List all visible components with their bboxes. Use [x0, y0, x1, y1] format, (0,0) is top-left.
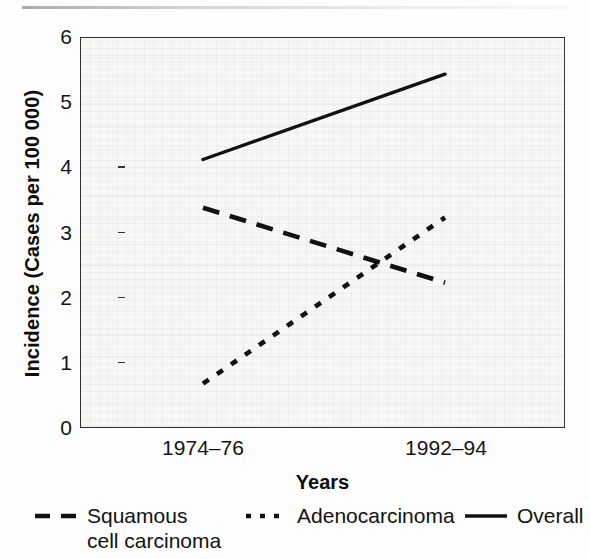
- y-tick-label-3: 3: [44, 222, 72, 243]
- x-axis-title: Years: [80, 471, 565, 494]
- series-line-squamous: [203, 208, 445, 283]
- y-tick-label-6: 6: [44, 26, 72, 47]
- legend-swatch-dotted-icon: [244, 507, 288, 525]
- y-tick-label-0: 0: [44, 417, 72, 438]
- legend-swatch-solid-icon: [464, 507, 508, 525]
- legend-label-adenocarcinoma: Adenocarcinoma: [297, 503, 455, 528]
- legend-swatch-dashed-icon: [34, 507, 78, 525]
- y-tick-label-1: 1: [44, 352, 72, 373]
- x-tick-label-1974-76: 1974–76: [123, 436, 283, 460]
- y-axis-title: Incidence (Cases per 100 000): [21, 34, 44, 434]
- x-tick-label-1992-94: 1992–94: [366, 436, 526, 460]
- legend-item-overall: Overall: [464, 503, 574, 528]
- chart-legend: Squamous cell carcinoma Adenocarcinoma: [34, 503, 574, 557]
- legend-item-squamous: Squamous cell carcinoma: [34, 503, 244, 553]
- legend-label-overall: Overall: [517, 503, 584, 528]
- legend-label-squamous: Squamous cell carcinoma: [87, 503, 221, 553]
- plot-series-layer: [80, 37, 565, 428]
- line-chart: 6 5 4 3 2 1 0 Inc: [0, 0, 590, 559]
- y-axis-ticks: 6 5 4 3 2 1 0: [44, 0, 72, 559]
- y-tick-label-4: 4: [44, 156, 72, 177]
- series-line-adenocarcinoma: [203, 218, 445, 384]
- y-tick-label-2: 2: [44, 287, 72, 308]
- y-tick-label-5: 5: [44, 91, 72, 112]
- figure-page: 6 5 4 3 2 1 0 Inc: [0, 0, 590, 559]
- legend-item-adenocarcinoma: Adenocarcinoma: [244, 503, 464, 528]
- series-line-overall: [203, 74, 445, 159]
